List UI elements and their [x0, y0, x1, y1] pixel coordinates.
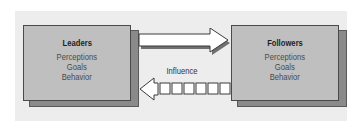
arrow-left-segmented-icon [138, 76, 232, 102]
leaders-node: Leaders Perceptions Goals Behavior [23, 25, 133, 102]
leaders-attr-goals: Goals [57, 62, 97, 72]
influence-label: Influence [155, 66, 209, 76]
leaders-box: Leaders Perceptions Goals Behavior [23, 25, 131, 101]
leaders-attr-perceptions: Perceptions [57, 52, 97, 62]
arrow-right-icon [138, 28, 232, 58]
leaders-attributes: Perceptions Goals Behavior [57, 52, 97, 82]
followers-title: Followers [267, 38, 303, 48]
followers-attr-perceptions: Perceptions [265, 52, 305, 62]
leaders-attr-behavior: Behavior [57, 72, 97, 82]
leaders-title: Leaders [62, 38, 91, 48]
followers-attr-behavior: Behavior [265, 72, 305, 82]
followers-attributes: Perceptions Goals Behavior [265, 52, 305, 82]
followers-box: Followers Perceptions Goals Behavior [231, 25, 339, 101]
followers-node: Followers Perceptions Goals Behavior [231, 25, 341, 102]
followers-attr-goals: Goals [265, 62, 305, 72]
